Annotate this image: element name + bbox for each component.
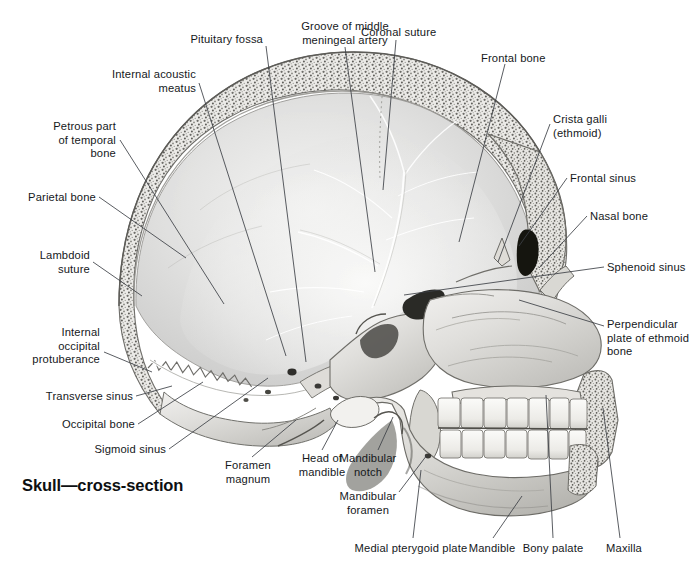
- label-frontal-sinus: Frontal sinus: [570, 172, 636, 186]
- upper-teeth: [438, 398, 587, 429]
- label-parietal-bone: Parietal bone: [0, 191, 96, 205]
- label-internal-acoustic-meatus: Internal acoustic meatus: [0, 68, 196, 95]
- lower-teeth: [440, 430, 586, 459]
- label-sphenoid-sinus: Sphenoid sinus: [607, 261, 686, 275]
- label-mandibular-notch: Mandibular notch: [278, 452, 458, 479]
- label-lambdoid-suture: Lambdoid suture: [0, 249, 90, 276]
- label-coronal-suture: Coronal suture: [361, 26, 436, 40]
- label-transverse-sinus: Transverse sinus: [0, 390, 133, 404]
- label-pituitary-fossa: Pituitary fossa: [0, 33, 263, 47]
- label-petrous-part-of-temporal-bone: Petrous part of temporal bone: [0, 120, 116, 161]
- label-perpendicular-plate-of-ethmoid-bone: Perpendicular plate of ethmoid bone: [607, 318, 689, 359]
- label-frontal-bone: Frontal bone: [481, 52, 546, 66]
- label-sigmoid-sinus: Sigmoid sinus: [0, 443, 166, 457]
- label-occipital-bone: Occipital bone: [0, 418, 135, 432]
- label-mandibular-foamen: Mandibular foramen: [278, 490, 458, 517]
- page-title: Skull—cross-section: [22, 476, 183, 495]
- label-maxilla: Maxilla: [534, 542, 697, 556]
- head-of-mandible-shape: [331, 396, 379, 427]
- label-nasal-bone: Nasal bone: [590, 210, 648, 224]
- label-internal-occipital-protuberance: Internal occipital protuberance: [0, 326, 100, 367]
- label-crista-galli-ethmoid: Crista galli (ethmoid): [553, 113, 607, 140]
- internal-acoustic-meatus-shape: [287, 369, 296, 376]
- perpendicular-plate-shape: [423, 290, 601, 388]
- teeth: [438, 398, 588, 459]
- illustration-plate: Pituitary fossaGroove of middle meningea…: [0, 0, 697, 577]
